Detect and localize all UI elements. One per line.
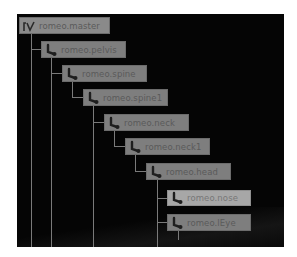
connector-neck	[93, 122, 104, 123]
connector-pelvis-down	[51, 58, 52, 247]
joint-icon	[149, 165, 163, 179]
node-romeo-nose[interactable]: romeo.nose	[167, 190, 251, 206]
connector-nose	[157, 198, 167, 199]
node-romeo-spine[interactable]: romeo.spine	[62, 65, 147, 82]
master-curve-icon	[22, 19, 36, 33]
node-label: romeo.neck	[124, 118, 175, 128]
node-romeo-pelvis[interactable]: romeo.pelvis	[41, 41, 126, 58]
joint-icon	[44, 43, 58, 57]
node-label: romeo.spine	[82, 69, 136, 79]
node-romeo-neck1[interactable]: romeo.neck1	[125, 138, 210, 155]
node-label: romeo.master	[39, 21, 100, 31]
joint-icon	[170, 191, 184, 205]
connector-spine1-down	[93, 106, 94, 247]
connector-pelvis	[31, 49, 41, 50]
node-romeo-head[interactable]: romeo.head	[146, 163, 231, 180]
node-label: romeo.lEye	[187, 218, 236, 228]
connector-spine	[51, 73, 62, 74]
joint-icon	[128, 140, 142, 154]
node-label: romeo.head	[166, 167, 218, 177]
joint-icon	[86, 91, 100, 105]
connector-neck1	[114, 146, 125, 147]
joint-icon	[170, 216, 184, 230]
connector-leye	[157, 222, 167, 223]
node-romeo-master[interactable]: romeo.master	[19, 17, 110, 34]
connector-neck1-down	[135, 155, 136, 171]
joint-icon	[65, 67, 79, 81]
node-label: romeo.neck1	[145, 142, 202, 152]
connector-master	[31, 31, 32, 247]
connector-neck-down	[114, 131, 115, 146]
node-label: romeo.pelvis	[61, 45, 117, 55]
node-romeo-neck[interactable]: romeo.neck	[104, 114, 189, 131]
node-romeo-spine1[interactable]: romeo.spine1	[83, 89, 168, 106]
connector-head	[135, 171, 146, 172]
joint-icon	[107, 116, 121, 130]
connector-head-down	[157, 180, 158, 247]
node-romeo-leye[interactable]: romeo.lEye	[167, 214, 251, 231]
connector-spine-down	[72, 82, 73, 97]
connector-spine1	[72, 97, 83, 98]
node-label: romeo.spine1	[103, 93, 162, 103]
node-label: romeo.nose	[187, 193, 238, 203]
hierarchy-graph-panel: romeo.master romeo.pelvis romeo.spine ro…	[17, 14, 284, 247]
connector-leye-down	[178, 230, 179, 240]
